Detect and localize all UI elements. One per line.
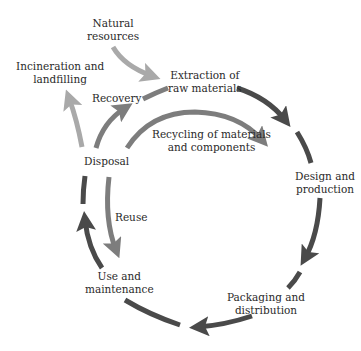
- edge-label-recovery: Recovery: [92, 92, 141, 105]
- node-natural-resources-line1: Natural: [87, 17, 139, 30]
- edge-label-reuse-text: Reuse: [115, 211, 147, 224]
- node-natural-resources-line2: resources: [87, 30, 139, 43]
- node-use-line1: Use and: [85, 270, 154, 283]
- node-disposal: Disposal: [84, 155, 129, 168]
- arrow-segment-design: [297, 132, 311, 163]
- arrow-packaging-to-use: [198, 316, 252, 327]
- node-use-line2: maintenance: [85, 283, 154, 296]
- arrow-recovery-segment: [143, 88, 168, 99]
- life-cycle-diagram: Natural resources Incineration and landf…: [0, 0, 361, 351]
- arrow-recovery: [96, 108, 125, 148]
- edge-label-recovery-text: Recovery: [92, 92, 141, 105]
- edge-label-recycling-line2: and components: [152, 141, 271, 154]
- node-design-line2: production: [295, 183, 355, 196]
- node-extraction: Extraction of raw materials: [168, 69, 242, 95]
- edge-label-recycling: Recycling of materials and components: [152, 128, 271, 154]
- node-natural-resources: Natural resources: [87, 17, 139, 43]
- node-incineration-landfilling: Incineration and landfilling: [16, 60, 104, 86]
- arrow-segment-packaging: [288, 272, 300, 288]
- node-disposal-text: Disposal: [84, 155, 129, 168]
- node-incineration-line1: Incineration and: [16, 60, 104, 73]
- arrow-segment-disposal-left: [83, 176, 85, 204]
- arrow-natural-resources-to-extraction: [113, 47, 152, 76]
- node-packaging-line1: Packaging and: [227, 291, 305, 304]
- edge-label-reuse: Reuse: [115, 211, 147, 224]
- arrow-use-to-disposal: [85, 220, 102, 268]
- node-use-maintenance: Use and maintenance: [85, 270, 154, 296]
- edge-label-recycling-line1: Recycling of materials: [152, 128, 271, 141]
- arrow-design-to-packaging: [305, 198, 320, 258]
- arrow-extraction-to-design: [237, 88, 285, 120]
- arrow-disposal-to-incineration: [69, 98, 82, 147]
- node-incineration-line2: landfilling: [16, 73, 104, 86]
- node-extraction-line2: raw materials: [168, 82, 242, 95]
- node-packaging-distribution: Packaging and distribution: [227, 291, 305, 317]
- node-design-line1: Design and: [295, 170, 355, 183]
- node-design-production: Design and production: [295, 170, 355, 196]
- arrow-segment-bottom-left: [125, 300, 180, 325]
- node-packaging-line2: distribution: [227, 304, 305, 317]
- node-extraction-line1: Extraction of: [168, 69, 242, 82]
